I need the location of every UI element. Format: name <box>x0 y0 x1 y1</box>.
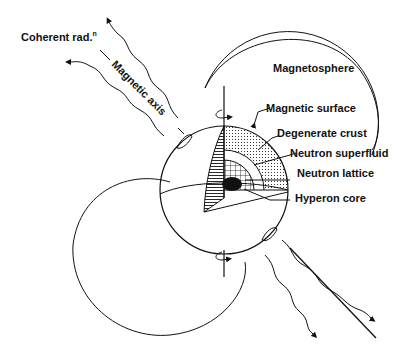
coherent-radiation-superscript: n <box>93 30 97 37</box>
magnetic-pole-upper <box>177 135 192 149</box>
diagram-canvas: Coherent rad.n Magnetic axis Magnetosphe… <box>0 0 405 353</box>
label-hyperon-core: Hyperon core <box>295 192 366 204</box>
label-neutron-lattice: Neutron lattice <box>297 167 374 179</box>
label-magnetic-surface: Magnetic surface <box>266 102 356 114</box>
cut-wall-hatch <box>204 126 224 212</box>
label-neutron-superfluid: Neutron superfluid <box>290 147 388 159</box>
coherent-radiation-text: Coherent rad. <box>21 31 93 43</box>
magnetosphere-lower-arc <box>73 179 246 336</box>
label-coherent-radiation: Coherent rad.n <box>21 30 97 43</box>
label-degenerate-crust: Degenerate crust <box>277 127 367 139</box>
label-magnetosphere: Magnetosphere <box>273 62 354 74</box>
rotation-arrow-top-icon <box>216 110 230 118</box>
hyperon-core <box>222 177 242 191</box>
magnetic-axis-upper <box>100 50 110 60</box>
leader-hyperon-core <box>244 189 290 200</box>
magnetic-axis-lower <box>290 248 376 338</box>
